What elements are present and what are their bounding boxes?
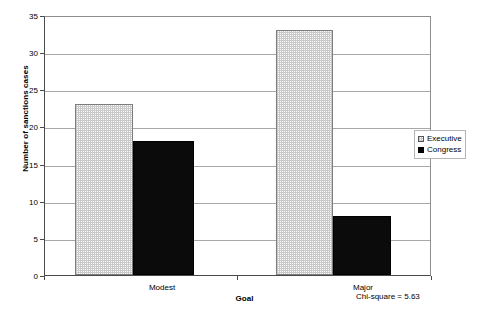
gridline: [45, 54, 430, 55]
chi-square-annotation: Chi-square = 5.63: [356, 292, 420, 301]
bar-congress-major: [333, 216, 391, 275]
legend-item-congress: Congress: [418, 144, 462, 155]
y-axis-tick-label: 25: [0, 86, 38, 95]
gridline: [45, 91, 430, 92]
bar-executive-modest: [75, 104, 133, 275]
x-axis-tick-mark: [44, 276, 45, 280]
y-axis-tick-label: 30: [0, 49, 38, 58]
legend-item-executive: Executive: [418, 133, 462, 144]
legend: Executive Congress: [414, 130, 466, 159]
y-axis-tick-label: 0: [0, 272, 38, 281]
x-axis-tick-mark: [237, 276, 238, 280]
x-axis-category-label: Modest: [149, 283, 175, 292]
bar-congress-modest: [133, 141, 194, 275]
legend-label-executive: Executive: [427, 133, 462, 144]
plot-area: [44, 16, 431, 276]
legend-swatch-congress-icon: [418, 147, 424, 153]
x-axis-category-label: Major: [353, 283, 373, 292]
legend-swatch-executive-icon: [418, 136, 424, 142]
y-axis-tick-label: 10: [0, 197, 38, 206]
y-axis-tick-label: 15: [0, 160, 38, 169]
y-axis-tick-label: 5: [0, 234, 38, 243]
bar-chart: Number of sanctions cases 05101520253035…: [0, 0, 489, 316]
legend-label-congress: Congress: [427, 144, 461, 155]
x-axis-tick-mark: [431, 276, 432, 280]
y-axis-tick-label: 20: [0, 123, 38, 132]
bar-executive-major: [276, 30, 333, 275]
y-axis-tick-label: 35: [0, 12, 38, 21]
